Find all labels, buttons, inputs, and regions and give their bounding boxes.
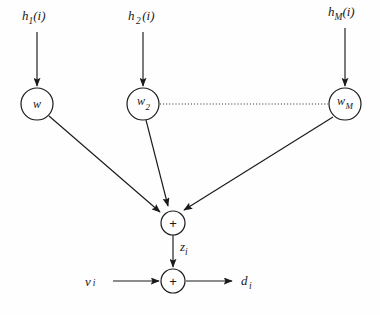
signal-label-v: vi (85, 274, 96, 289)
input-label-h1: h1(i) (22, 8, 46, 26)
input-label-hM: hM(i) (328, 4, 355, 22)
weight-to-sum-line-M (184, 117, 333, 210)
adder-plus-top: + (169, 216, 177, 231)
adder-plus-bottom: + (169, 274, 177, 289)
weight-to-sum-line-2 (146, 120, 168, 206)
weight-label-w1: w (33, 97, 41, 111)
signal-flow-diagram: + + h1(i) h2(i) hM(i) w w2 wM (0, 0, 380, 315)
signal-label-d: di (241, 273, 252, 291)
weight-to-sum-line-1 (49, 116, 160, 212)
signal-label-z: zi (179, 239, 188, 257)
diagram-canvas: + + h1(i) h2(i) hM(i) w w2 wM (0, 0, 380, 315)
input-label-h2: h2(i) (128, 8, 155, 26)
